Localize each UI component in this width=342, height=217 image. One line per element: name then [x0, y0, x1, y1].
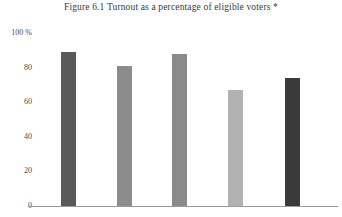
bar-series [40, 33, 336, 206]
y-tick-label: 100 % [11, 29, 32, 37]
y-tick-label: 40 [24, 133, 32, 141]
y-tick-label: 60 [24, 98, 32, 106]
figure-container: Figure 6.1 Turnout as a percentage of el… [0, 0, 342, 217]
bar [172, 54, 187, 206]
bar [61, 52, 76, 206]
figure-title: Figure 6.1 Turnout as a percentage of el… [0, 2, 342, 12]
x-axis-line [28, 206, 338, 207]
y-tick-label: 20 [24, 167, 32, 175]
bar [117, 66, 132, 206]
plot-area [40, 33, 336, 206]
bar [228, 90, 243, 206]
bar [285, 78, 300, 206]
y-tick-label: 80 [24, 64, 32, 72]
y-axis: 100 %806040200 [0, 26, 38, 212]
